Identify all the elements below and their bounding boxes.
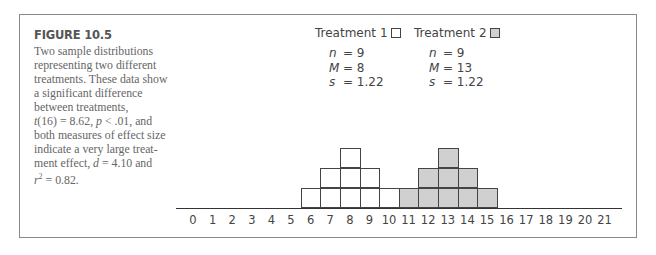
x-tick-label: 6: [301, 213, 321, 227]
histogram-box: [438, 148, 459, 168]
histogram-box: [320, 188, 341, 208]
x-tick-label: 17: [516, 213, 536, 227]
x-tick-label: 13: [438, 213, 458, 227]
x-tick-label: 3: [242, 213, 262, 227]
x-tick-label: 5: [281, 213, 301, 227]
x-tick-label: 2: [222, 213, 242, 227]
x-tick-label: 11: [399, 213, 419, 227]
histogram-box: [379, 188, 400, 208]
histogram-box: [399, 188, 420, 208]
histogram-box: [301, 188, 322, 208]
histogram-box: [360, 168, 381, 188]
x-tick-label: 10: [379, 213, 399, 227]
histogram-box: [418, 188, 439, 208]
x-tick-label: 4: [261, 213, 281, 227]
x-tick-label: 19: [555, 213, 575, 227]
x-tick-label: 18: [536, 213, 556, 227]
x-tick-label: 14: [457, 213, 477, 227]
histogram-box: [340, 168, 361, 188]
x-tick-label: 1: [203, 213, 223, 227]
histogram-box: [340, 188, 361, 208]
x-tick-label: 9: [359, 213, 379, 227]
histogram-box: [340, 148, 361, 168]
x-tick-label: 8: [340, 213, 360, 227]
histogram-box: [458, 188, 479, 208]
histogram-box: [438, 188, 459, 208]
x-tick-label: 7: [320, 213, 340, 227]
x-axis-line: [176, 208, 622, 209]
x-tick-label: 0: [183, 213, 203, 227]
histogram-chart: 0123456789101112131415161718192021: [0, 0, 656, 255]
x-tick-label: 21: [595, 213, 615, 227]
histogram-box: [458, 168, 479, 188]
histogram-box: [418, 168, 439, 188]
x-tick-label: 16: [497, 213, 517, 227]
histogram-box: [477, 188, 498, 208]
x-tick-label: 20: [575, 213, 595, 227]
histogram-box: [360, 188, 381, 208]
histogram-box: [438, 168, 459, 188]
histogram-box: [320, 168, 341, 188]
x-tick-label: 15: [477, 213, 497, 227]
x-tick-label: 12: [418, 213, 438, 227]
